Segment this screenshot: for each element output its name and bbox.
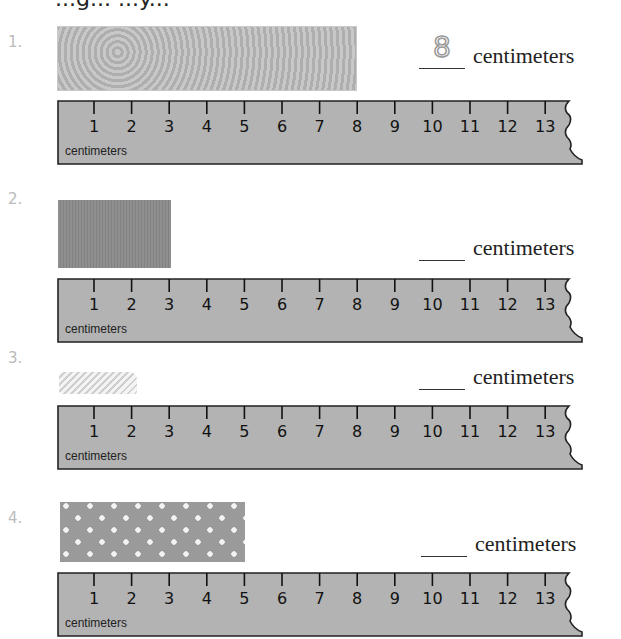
ruler-tick-label: 5 <box>239 589 249 608</box>
answer-unit: centimeters <box>473 43 574 69</box>
ruler-tick-label: 2 <box>127 117 137 136</box>
ruler-tick-label: 7 <box>315 589 325 608</box>
ruler-tick-label: 6 <box>277 589 287 608</box>
answer-unit: centimeters <box>473 235 574 261</box>
ruler-tick-label: 2 <box>127 295 137 314</box>
ruler-tick-label: 7 <box>315 422 325 441</box>
grosgrain-ribbon-image <box>58 200 171 268</box>
ruler-tick-label: 12 <box>497 422 517 441</box>
ruler-unit-label: centimeters <box>65 322 127 336</box>
ruler-tick-label: 11 <box>460 117 480 136</box>
ruler-tick-label: 3 <box>164 422 174 441</box>
ruler-tick-label: 7 <box>315 295 325 314</box>
answer-blank-4[interactable] <box>421 528 467 557</box>
ruler-tick-label: 1 <box>89 589 99 608</box>
answer-line-4: centimeters <box>421 528 576 557</box>
ruler-tick-label: 4 <box>202 422 212 441</box>
problem-number: 1. <box>8 33 22 51</box>
answer-line-2: centimeters <box>419 232 574 261</box>
ruler-tick-label: 6 <box>277 295 287 314</box>
ruler-tick-label: 13 <box>535 589 555 608</box>
problem-number: 2. <box>8 190 22 208</box>
lace-ribbon-image <box>57 26 357 91</box>
ruler-tick-label: 5 <box>239 117 249 136</box>
ruler-tick-label: 5 <box>239 422 249 441</box>
ruler-tick-label: 12 <box>497 295 517 314</box>
ruler-tick-label: 13 <box>535 295 555 314</box>
problem-number: 3. <box>8 349 22 367</box>
centimeter-ruler-3: 12345678910111213centimeters <box>57 405 585 469</box>
ruler-tick-label: 9 <box>390 589 400 608</box>
ruler-tick-label: 11 <box>460 589 480 608</box>
ruler-tick-label: 6 <box>277 117 287 136</box>
answer-blank-2[interactable] <box>419 232 465 261</box>
ruler-tick-label: 2 <box>127 589 137 608</box>
braided-cord-image <box>59 372 137 394</box>
ruler-tick-label: 8 <box>352 117 362 136</box>
polka-dot-ribbon-image <box>60 502 245 562</box>
ruler-tick-label: 3 <box>164 117 174 136</box>
answer-value-1: 8 <box>419 31 465 64</box>
ruler-tick-label: 2 <box>127 422 137 441</box>
ruler-tick-label: 5 <box>239 295 249 314</box>
ruler-tick-label: 3 <box>164 295 174 314</box>
ruler-tick-label: 6 <box>277 422 287 441</box>
ruler-tick-label: 10 <box>422 589 442 608</box>
ruler-tick-label: 12 <box>497 589 517 608</box>
answer-blank-3[interactable] <box>419 361 465 390</box>
answer-unit: centimeters <box>473 364 574 390</box>
ruler-unit-label: centimeters <box>65 449 127 463</box>
ruler-tick-label: 10 <box>422 117 442 136</box>
ruler-tick-label: 7 <box>315 117 325 136</box>
ruler-unit-label: centimeters <box>65 616 127 630</box>
answer-unit: centimeters <box>475 531 576 557</box>
ruler-tick-label: 10 <box>422 295 442 314</box>
ruler-tick-label: 13 <box>535 422 555 441</box>
ruler-tick-label: 1 <box>89 295 99 314</box>
page-heading-cropped: ...g... ...y... <box>55 0 170 11</box>
ruler-tick-label: 8 <box>352 295 362 314</box>
ruler-tick-label: 1 <box>89 117 99 136</box>
ruler-tick-label: 10 <box>422 422 442 441</box>
ruler-tick-label: 4 <box>202 117 212 136</box>
centimeter-ruler-2: 12345678910111213centimeters <box>57 278 585 342</box>
problem-number: 4. <box>8 509 22 527</box>
ruler-tick-label: 9 <box>390 295 400 314</box>
answer-line-3: centimeters <box>419 361 574 390</box>
ruler-tick-label: 9 <box>390 117 400 136</box>
centimeter-ruler-4: 12345678910111213centimeters <box>57 572 585 636</box>
ruler-unit-label: centimeters <box>65 144 127 158</box>
answer-line-1: 8 centimeters <box>419 40 574 69</box>
ruler-tick-label: 8 <box>352 589 362 608</box>
ruler-tick-label: 9 <box>390 422 400 441</box>
answer-blank-1[interactable]: 8 <box>419 40 465 69</box>
ruler-tick-label: 4 <box>202 589 212 608</box>
centimeter-ruler-1: 12345678910111213centimeters <box>57 100 585 164</box>
ruler-tick-label: 11 <box>460 295 480 314</box>
ruler-tick-label: 8 <box>352 422 362 441</box>
ruler-tick-label: 11 <box>460 422 480 441</box>
ruler-tick-label: 12 <box>497 117 517 136</box>
ruler-tick-label: 1 <box>89 422 99 441</box>
ruler-tick-label: 4 <box>202 295 212 314</box>
ruler-tick-label: 13 <box>535 117 555 136</box>
ruler-tick-label: 3 <box>164 589 174 608</box>
